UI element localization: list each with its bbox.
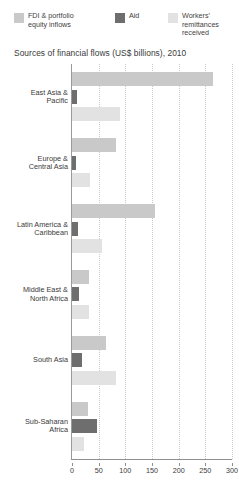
legend-swatch-icon (14, 13, 24, 23)
bar (72, 173, 90, 187)
legend-item-label: Workers' remittances received (182, 12, 219, 38)
x-tick-label: 100 (119, 466, 131, 475)
gridline (179, 64, 181, 459)
bar (72, 336, 106, 350)
legend-swatch-icon (168, 13, 178, 23)
bar (72, 107, 120, 121)
legend-item-label: Aid (129, 12, 139, 21)
chart-legend: FDI & portfolio equity inflows Aid Worke… (0, 12, 239, 46)
chart-plot: East Asia & PacificEurope & Central Asia… (0, 64, 239, 464)
bar (72, 239, 102, 253)
bar (72, 222, 78, 236)
gridline (232, 64, 234, 459)
x-axis-line (71, 459, 232, 460)
bar (72, 156, 76, 170)
bar (72, 353, 82, 367)
legend-item-remittances: Workers' remittances received (168, 12, 219, 38)
bar-group (72, 138, 232, 187)
gridlines (72, 64, 232, 459)
x-tick-label: 0 (70, 466, 74, 475)
bar-group (72, 72, 232, 121)
bar (72, 138, 116, 152)
x-tick-label: 50 (95, 466, 103, 475)
chart-title: Sources of financial flows (US$ billions… (14, 48, 186, 58)
bar (72, 419, 97, 433)
bar-group (72, 270, 232, 319)
legend-item-aid: Aid (115, 12, 139, 23)
legend-swatch-icon (115, 13, 125, 23)
gridline (152, 64, 154, 459)
bar-group (72, 402, 232, 451)
x-tick-label: 250 (199, 466, 211, 475)
bar (72, 72, 213, 86)
x-tick-label: 150 (146, 466, 158, 475)
bar-group (72, 204, 232, 253)
bar (72, 204, 155, 218)
legend-item-fdi: FDI & portfolio equity inflows (14, 12, 74, 29)
category-label: Middle East & North Africa (0, 286, 68, 303)
legend-item-label: FDI & portfolio equity inflows (28, 12, 74, 29)
gridline (205, 64, 207, 459)
gridline (99, 64, 101, 459)
bar-group (72, 336, 232, 385)
x-axis-ticks: 050100150200250300 (0, 463, 239, 477)
bar (72, 90, 77, 104)
bar (72, 287, 79, 301)
bars-container (72, 64, 232, 459)
bar (72, 270, 89, 284)
x-tick-label: 200 (173, 466, 185, 475)
bar (72, 305, 89, 319)
category-label: Europe & Central Asia (0, 154, 68, 171)
bar (72, 402, 88, 416)
category-label: South Asia (0, 356, 68, 364)
category-label: Sub-Saharan Africa (0, 418, 68, 435)
category-axis: East Asia & PacificEurope & Central Asia… (0, 64, 70, 459)
bar (72, 437, 84, 451)
x-tick-label: 300 (226, 466, 238, 475)
category-label: Latin America & Caribbean (0, 220, 68, 237)
bar (72, 371, 116, 385)
category-label: East Asia & Pacific (0, 89, 68, 106)
gridline (125, 64, 127, 459)
